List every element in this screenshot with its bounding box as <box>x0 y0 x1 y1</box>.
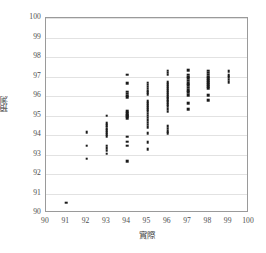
data-point <box>207 87 210 90</box>
data-point <box>146 132 149 135</box>
data-point <box>146 93 149 96</box>
y-axis-tick-labels: 90919293949596979899100 <box>0 17 41 212</box>
data-point <box>85 144 88 147</box>
data-point <box>167 132 170 135</box>
y-axis-tick-label: 94 <box>1 130 41 138</box>
y-axis-tick-label: 92 <box>1 169 41 177</box>
data-point <box>126 82 129 85</box>
data-point <box>126 135 129 138</box>
data-point <box>126 117 129 120</box>
data-point <box>187 108 190 111</box>
data-point <box>227 81 230 84</box>
data-point <box>146 141 149 144</box>
data-point <box>126 141 129 144</box>
data-point <box>85 157 88 160</box>
data-point <box>227 70 230 73</box>
data-point <box>146 148 149 151</box>
data-point <box>126 73 129 76</box>
x-axis-tick-label: 100 <box>236 217 260 225</box>
x-axis-title: 實際 <box>45 232 248 240</box>
scatter-chart: 90919293949596979899100 預測 9091929394959… <box>0 0 266 253</box>
data-point <box>106 135 109 138</box>
data-point <box>65 202 68 205</box>
plot-area <box>45 17 248 212</box>
data-point <box>126 160 129 163</box>
x-axis-tick-labels: 90919293949596979899100 <box>45 217 248 229</box>
data-point <box>187 102 190 105</box>
y-axis-tick-label: 98 <box>1 52 41 60</box>
data-point <box>126 144 129 147</box>
y-axis-tick-label: 99 <box>1 33 41 41</box>
data-point <box>167 110 170 113</box>
data-point <box>207 99 210 102</box>
data-point <box>106 114 109 117</box>
data-points-layer <box>46 18 247 211</box>
y-axis-tick-label: 90 <box>1 208 41 216</box>
data-point <box>207 94 210 97</box>
y-axis-title: 預測 <box>2 95 16 112</box>
data-point <box>146 126 149 129</box>
data-point <box>167 73 170 76</box>
data-point <box>85 131 88 134</box>
data-point <box>106 152 109 155</box>
y-axis-tick-label: 100 <box>1 13 41 21</box>
data-point <box>126 96 129 99</box>
y-axis-tick-label: 93 <box>1 150 41 158</box>
data-point <box>187 69 190 72</box>
y-axis-tick-label: 97 <box>1 72 41 80</box>
data-point <box>187 94 190 97</box>
y-axis-tick-label: 91 <box>1 189 41 197</box>
